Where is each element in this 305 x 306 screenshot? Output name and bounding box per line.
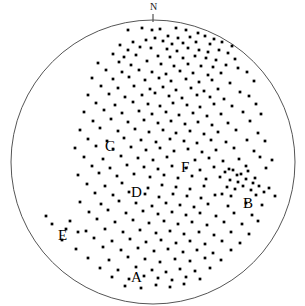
data-point	[199, 212, 202, 215]
data-point	[196, 142, 199, 145]
primitive-circle-boundary	[11, 20, 295, 304]
data-point	[199, 169, 202, 172]
data-point	[91, 77, 94, 80]
data-point	[242, 111, 245, 114]
data-point	[258, 185, 261, 188]
data-point	[120, 249, 123, 252]
data-point	[159, 261, 162, 264]
data-point	[149, 176, 152, 179]
data-point	[77, 231, 80, 234]
data-point	[172, 102, 175, 105]
data-point	[162, 40, 165, 43]
data-point	[227, 205, 230, 208]
data-point	[83, 156, 86, 159]
data-point	[177, 37, 180, 40]
data-point	[69, 220, 72, 223]
data-point	[246, 139, 249, 142]
data-point	[174, 258, 177, 261]
data-point	[137, 157, 140, 160]
data-point	[117, 130, 120, 133]
data-point	[142, 210, 145, 213]
data-point	[102, 158, 105, 161]
data-point	[94, 192, 97, 195]
data-point	[138, 110, 141, 113]
data-point	[242, 185, 245, 188]
data-point	[182, 57, 185, 60]
data-point	[151, 71, 154, 74]
data-point	[172, 193, 175, 196]
data-point	[155, 284, 158, 287]
cluster-label-e: E	[58, 228, 67, 243]
data-point	[177, 177, 180, 180]
data-point	[261, 204, 264, 207]
data-point	[239, 242, 242, 245]
data-point	[123, 56, 126, 59]
data-point	[189, 36, 192, 39]
data-point	[171, 165, 174, 168]
data-point	[135, 54, 138, 57]
data-point	[167, 248, 170, 251]
data-point	[250, 189, 253, 192]
data-point	[118, 200, 121, 203]
data-point	[264, 140, 267, 143]
data-point	[126, 164, 129, 167]
data-point	[221, 41, 224, 44]
data-point	[157, 168, 160, 171]
data-point	[133, 173, 136, 176]
data-point	[160, 239, 163, 242]
data-point	[87, 257, 90, 260]
data-point	[163, 220, 166, 223]
data-point	[127, 29, 130, 32]
data-point	[151, 269, 154, 272]
data-point	[169, 56, 172, 59]
data-point	[79, 129, 82, 132]
data-point	[245, 165, 248, 168]
data-point	[109, 167, 112, 170]
cluster-label-f: F	[181, 160, 189, 175]
data-point	[97, 62, 100, 65]
data-point	[185, 29, 188, 32]
data-point	[253, 80, 256, 83]
data-point	[249, 120, 252, 123]
data-point	[207, 203, 210, 206]
data-point	[183, 233, 186, 236]
data-point	[203, 90, 206, 93]
data-point	[87, 94, 90, 97]
data-point	[195, 41, 198, 44]
data-point	[144, 258, 147, 261]
data-point	[112, 53, 115, 56]
data-point	[213, 234, 216, 237]
data-point	[118, 61, 121, 64]
data-point	[185, 78, 188, 81]
data-point	[209, 267, 212, 270]
data-point	[179, 70, 182, 73]
data-point	[111, 240, 114, 243]
data-point	[237, 181, 240, 184]
data-point	[207, 51, 210, 54]
data-point	[88, 211, 91, 214]
data-point	[132, 101, 135, 104]
data-point	[148, 222, 151, 225]
data-point	[79, 201, 82, 204]
data-point	[108, 259, 111, 262]
data-point	[183, 140, 186, 143]
data-point	[234, 188, 237, 191]
data-point	[132, 41, 135, 44]
data-point	[225, 141, 228, 144]
data-point	[213, 38, 216, 41]
data-point	[230, 249, 233, 252]
data-point	[77, 174, 80, 177]
data-point	[198, 49, 201, 52]
data-point	[197, 32, 200, 35]
data-point	[190, 87, 193, 90]
data-point	[224, 171, 227, 174]
data-point	[220, 113, 223, 116]
data-point	[135, 202, 138, 205]
data-point	[144, 193, 147, 196]
data-point	[124, 285, 127, 288]
data-point	[45, 215, 48, 218]
data-point	[189, 240, 192, 243]
data-point	[135, 266, 138, 269]
data-point	[200, 197, 203, 200]
data-point	[238, 158, 241, 161]
